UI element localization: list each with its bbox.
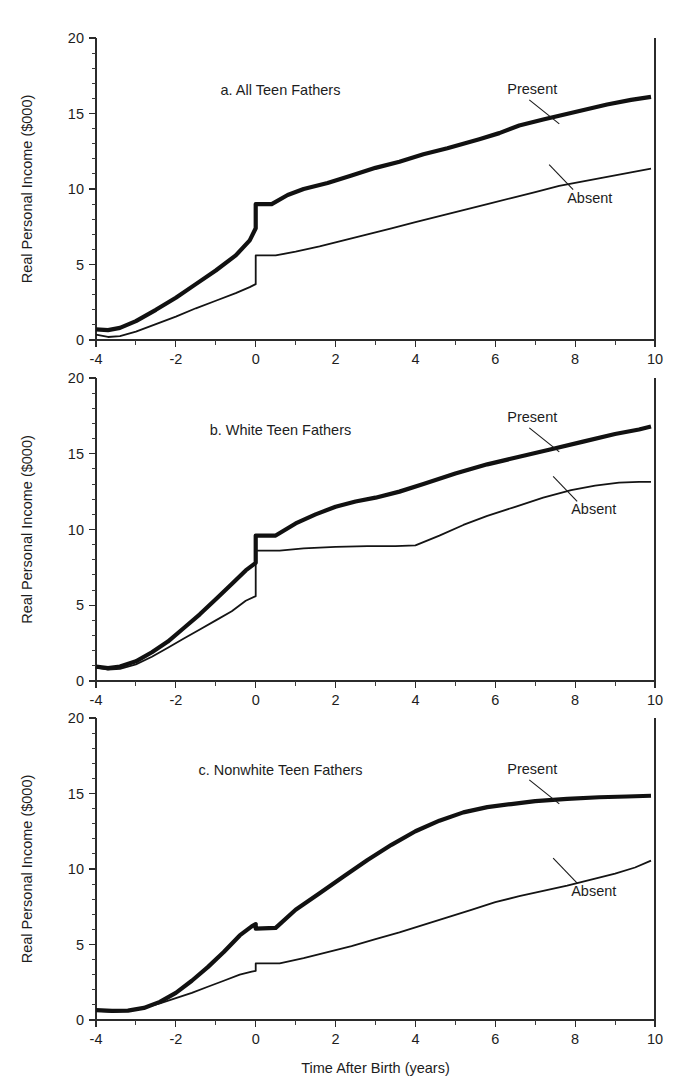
series-annotation-absent: Absent [571,501,616,517]
x-tick-label: -2 [169,692,182,708]
x-tick-label: 8 [571,692,579,708]
x-tick-label: -2 [169,351,182,367]
x-tick-label: 2 [332,1031,340,1047]
panel-title-b: b. White Teen Fathers [210,422,352,438]
y-axis-title: Real Personal Income ($000) [19,95,35,284]
y-tick-label: 5 [76,937,84,953]
axis-spine-left-bottom [96,378,655,681]
y-tick-label: 5 [76,257,84,273]
y-axis-title: Real Personal Income ($000) [19,775,35,964]
y-tick-label: 5 [76,597,84,613]
x-tick-label: 8 [571,1031,579,1047]
x-tick-label: 6 [491,1031,499,1047]
x-tick-label: 10 [647,692,663,708]
figure-root: 05101520-4-20246810a. All Teen FathersPr… [0,0,685,1084]
curve-present [96,426,651,668]
x-tick-label: 8 [571,351,579,367]
x-tick-label: -4 [90,351,103,367]
curve-present [96,97,651,330]
x-tick-label: 4 [411,692,419,708]
panel-b: 05101520-4-20246810b. White Teen Fathers… [19,370,663,708]
x-tick-label: 10 [647,351,663,367]
axis-spine-left-bottom [96,718,655,1020]
panel-c: 05101520-4-20246810c. Nonwhite Teen Fath… [19,710,663,1076]
series-annotation-present: Present [507,409,557,425]
y-tick-label: 20 [68,30,84,46]
y-tick-label: 0 [76,673,84,689]
x-tick-label: 0 [252,692,260,708]
leader-line-absent [553,858,577,883]
x-tick-label: -4 [90,1031,103,1047]
series-annotation-absent: Absent [571,883,616,899]
y-tick-label: 20 [68,710,84,726]
x-tick-label: 0 [252,351,260,367]
y-tick-label: 0 [76,1012,84,1028]
x-tick-label: -2 [169,1031,182,1047]
y-tick-label: 20 [68,370,84,386]
x-tick-label: -4 [90,692,103,708]
x-tick-label: 6 [491,692,499,708]
y-tick-label: 10 [68,861,84,877]
x-tick-label: 6 [491,351,499,367]
panel-a: 05101520-4-20246810a. All Teen FathersPr… [19,30,663,367]
x-tick-label: 10 [647,1031,663,1047]
series-annotation-present: Present [507,81,557,97]
y-tick-label: 15 [68,446,84,462]
three-panel-line-chart: 05101520-4-20246810a. All Teen FathersPr… [0,0,685,1084]
x-tick-label: 2 [332,351,340,367]
series-annotation-absent: Absent [567,190,612,206]
series-annotation-present: Present [507,761,557,777]
curve-present [96,796,651,1011]
x-axis-title: Time After Birth (years) [301,1060,450,1076]
y-tick-label: 15 [68,106,84,122]
y-tick-label: 15 [68,786,84,802]
panel-title-a: a. All Teen Fathers [221,82,341,98]
y-tick-label: 10 [68,181,84,197]
y-tick-label: 0 [76,332,84,348]
x-tick-label: 4 [411,351,419,367]
leader-line-present [529,428,559,452]
panel-title-c: c. Nonwhite Teen Fathers [198,762,362,778]
x-tick-label: 0 [252,1031,260,1047]
x-tick-label: 2 [332,692,340,708]
curve-absent [96,482,651,670]
y-axis-title: Real Personal Income ($000) [19,435,35,624]
y-tick-label: 10 [68,522,84,538]
x-tick-label: 4 [411,1031,419,1047]
